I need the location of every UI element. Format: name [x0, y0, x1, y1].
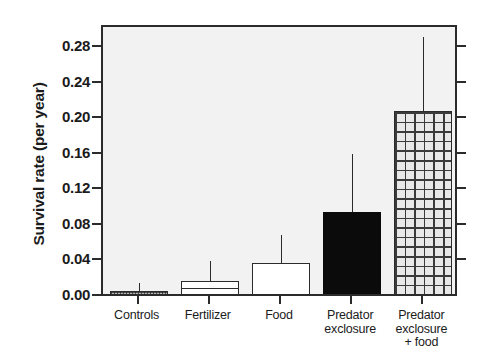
error-bar — [352, 154, 353, 212]
x-tick-mark — [279, 296, 281, 304]
y-tick-mark-right — [457, 187, 466, 189]
y-tick-mark — [92, 45, 101, 47]
y-tick-label: 0.16 — [34, 144, 90, 161]
y-tick-mark-right — [457, 45, 466, 47]
plot-content — [103, 27, 455, 294]
x-tick-mark — [137, 296, 139, 304]
y-tick-label: 0.04 — [34, 250, 90, 267]
bar-fertilizer — [181, 281, 239, 294]
x-tick-mark — [421, 296, 423, 304]
y-tick-mark — [92, 294, 101, 296]
y-tick-mark — [92, 223, 101, 225]
y-tick-label: 0.28 — [34, 37, 90, 54]
y-tick-label: 0.24 — [34, 73, 90, 90]
y-tick-mark-right — [457, 258, 466, 260]
y-tick-mark — [92, 258, 101, 260]
y-tick-mark — [92, 81, 101, 83]
bar-chart-figure: Survival rate (per year) 0.000.040.080.1… — [0, 0, 483, 363]
y-tick-label: 0.20 — [34, 108, 90, 125]
y-tick-mark — [92, 187, 101, 189]
x-tick-label-line: Predator — [379, 309, 464, 323]
y-tick-label: 0.08 — [34, 215, 90, 232]
x-tick-label-line: + food — [379, 336, 464, 350]
x-tick-label-line: exclosure — [379, 323, 464, 337]
x-tick-label: Predatorexclosure+ food — [379, 309, 464, 350]
error-bar — [210, 261, 211, 281]
error-bar — [139, 283, 140, 291]
y-tick-mark — [92, 116, 101, 118]
bar-food — [252, 263, 310, 294]
y-tick-mark-right — [457, 81, 466, 83]
plot-area — [101, 25, 457, 296]
error-bar — [423, 37, 424, 111]
bar-controls — [110, 291, 168, 294]
y-tick-label: 0.00 — [34, 286, 90, 303]
y-tick-mark-right — [457, 223, 466, 225]
y-tick-mark — [92, 152, 101, 154]
y-tick-mark-right — [457, 116, 466, 118]
bar-predator-exclosure — [323, 212, 381, 294]
x-tick-mark — [208, 296, 210, 304]
y-tick-label: 0.12 — [34, 179, 90, 196]
bar-predator-exclosure-food — [394, 111, 452, 294]
error-bar — [281, 235, 282, 263]
x-tick-mark — [350, 296, 352, 304]
y-tick-mark-right — [457, 152, 466, 154]
